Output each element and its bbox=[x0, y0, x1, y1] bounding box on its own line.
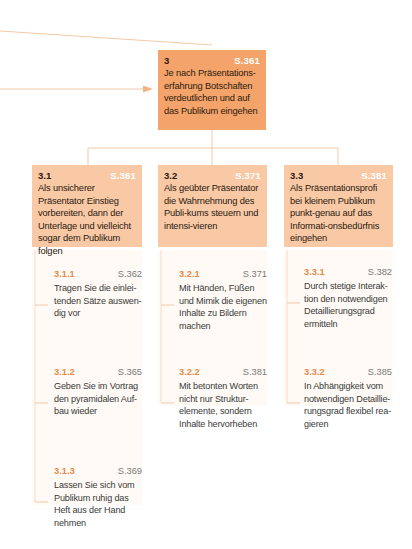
item-number: 3.2.2 bbox=[179, 367, 200, 378]
item-text: Mit betonten Worten nicht nur Struktur-e… bbox=[179, 380, 267, 430]
node-text: Je nach Präsentations-erfahrung Botschaf… bbox=[164, 67, 260, 117]
item-number: 3.3.1 bbox=[304, 267, 325, 278]
node-number: 3 bbox=[164, 55, 169, 66]
item-number: 3.3.2 bbox=[304, 367, 325, 378]
node-3[interactable]: 3 S.361 Je nach Präsentations-erfahrung … bbox=[158, 50, 266, 130]
page-ref: S.381 bbox=[243, 367, 267, 378]
page-ref: S.381 bbox=[361, 170, 387, 181]
node-3-3-2[interactable]: 3.3.2 S.385 In Abhängigkeit vom notwendi… bbox=[304, 367, 392, 430]
page-ref: S.365 bbox=[118, 367, 142, 378]
node-text: Als geübter Präsentator die Wahrnehmung … bbox=[164, 182, 261, 232]
item-number: 3.1.1 bbox=[54, 269, 75, 280]
item-text: Tragen Sie die einlei-tenden Sätze auswe… bbox=[54, 282, 142, 320]
item-number: 3.1.2 bbox=[54, 367, 75, 378]
node-text: Als Präsentationsprofi bei kleinem Publi… bbox=[290, 182, 387, 245]
item-text: Mit Händen, Füßen und Mimik die eigenen … bbox=[179, 282, 267, 332]
item-text: Lassen Sie sich vom Publikum ruhig das H… bbox=[54, 479, 142, 529]
page-ref: S.385 bbox=[368, 367, 392, 378]
node-number: 3.1 bbox=[38, 170, 51, 181]
node-3-1[interactable]: 3.1 S.361 Als unsicherer Präsentator Ein… bbox=[32, 165, 142, 247]
node-3-3[interactable]: 3.3 S.381 Als Präsentationsprofi bei kle… bbox=[284, 165, 393, 247]
page-ref: S.382 bbox=[368, 267, 392, 278]
node-text: Als unsicherer Präsentator Einstieg vorb… bbox=[38, 182, 136, 258]
node-3-3-1[interactable]: 3.3.1 S.382 Durch stetige Interak-tion d… bbox=[304, 267, 392, 330]
page-ref: S.362 bbox=[118, 269, 142, 280]
node-3-1-2[interactable]: 3.1.2 S.365 Geben Sie im Vortrag den pyr… bbox=[54, 367, 142, 418]
item-text: In Abhängigkeit vom notwendigen Detailli… bbox=[304, 380, 392, 430]
item-text: Geben Sie im Vortrag den pyramidalen Auf… bbox=[54, 380, 142, 418]
page-ref: S.369 bbox=[118, 466, 142, 477]
node-3-2-1[interactable]: 3.2.1 S.371 Mit Händen, Füßen und Mimik … bbox=[179, 269, 267, 332]
item-text: Durch stetige Interak-tion den notwendig… bbox=[304, 280, 392, 330]
page-ref: S.361 bbox=[110, 170, 136, 181]
node-3-2-2[interactable]: 3.2.2 S.381 Mit betonten Worten nicht nu… bbox=[179, 367, 267, 430]
page-ref: S.371 bbox=[235, 170, 261, 181]
node-number: 3.2 bbox=[164, 170, 177, 181]
item-number: 3.1.3 bbox=[54, 466, 75, 477]
page-ref: S.371 bbox=[243, 269, 267, 280]
node-3-1-1[interactable]: 3.1.1 S.362 Tragen Sie die einlei-tenden… bbox=[54, 269, 142, 320]
node-3-2[interactable]: 3.2 S.371 Als geübter Präsentator die Wa… bbox=[158, 165, 267, 247]
node-3-1-3[interactable]: 3.1.3 S.369 Lassen Sie sich vom Publikum… bbox=[54, 466, 142, 529]
item-number: 3.2.1 bbox=[179, 269, 200, 280]
node-number: 3.3 bbox=[290, 170, 303, 181]
page-ref: S.361 bbox=[234, 55, 260, 66]
